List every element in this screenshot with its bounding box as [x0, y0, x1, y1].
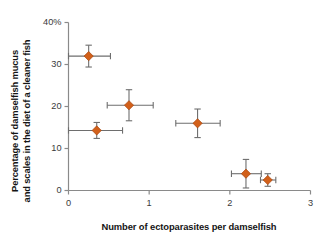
x-axis-tick-label: 0 — [49, 198, 89, 208]
y-axis-tick-label: 20 — [51, 101, 61, 111]
data-point-group — [69, 45, 111, 67]
data-point-group — [107, 90, 153, 121]
y-axis-tick-label: 30 — [51, 59, 61, 69]
y-axis-tick-label: 10 — [51, 143, 61, 153]
x-axis-tick-label: 1 — [129, 198, 169, 208]
data-point-marker — [124, 101, 133, 110]
x-axis-tick-label: 2 — [210, 198, 250, 208]
data-point-group — [260, 174, 275, 187]
y-axis-tick-label: 0 — [56, 185, 61, 195]
data-point-group — [69, 122, 123, 138]
data-point-marker — [84, 52, 93, 61]
data-point-marker — [241, 169, 250, 178]
y-axis-tick-label: 40% — [43, 17, 61, 27]
scatter-chart-figure: Percentage of damselfish mucus and scale… — [0, 0, 326, 242]
data-point-marker — [92, 126, 101, 135]
data-point-group — [176, 109, 220, 138]
data-point-group — [231, 159, 261, 188]
data-point-marker — [263, 175, 272, 184]
x-axis-tick-label: 3 — [291, 198, 326, 208]
data-point-marker — [193, 119, 202, 128]
